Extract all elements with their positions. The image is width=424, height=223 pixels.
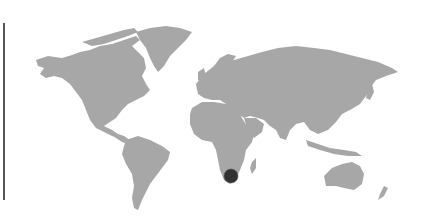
southeast-asia-islands	[306, 140, 362, 156]
south-america	[122, 136, 170, 210]
land-masses	[36, 26, 398, 210]
north-america	[36, 36, 150, 138]
new-zealand	[378, 186, 388, 200]
world-map	[0, 0, 424, 223]
madagascar	[250, 158, 256, 174]
australia	[324, 162, 364, 190]
location-marker-south-africa[interactable]	[224, 169, 238, 183]
